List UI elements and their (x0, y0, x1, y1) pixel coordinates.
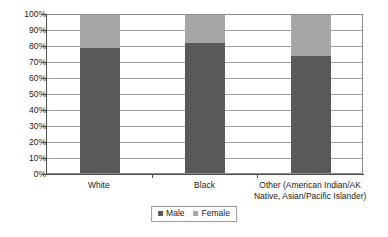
y-axis-tick-label: 20% (6, 138, 46, 147)
x-axis-category-label-line: Native, Asian/Pacific Islander) (245, 191, 375, 202)
y-axis-tick-label: 40% (6, 106, 46, 115)
y-axis-tick-labels: 100%90%80%70%60%50%40%30%20%10%0% (0, 0, 46, 237)
bar-segment-female[interactable] (185, 15, 225, 43)
chart-legend: Male Female (151, 206, 237, 222)
stacked-bar[interactable] (80, 15, 120, 173)
x-axis-tick-mark (257, 174, 258, 178)
y-axis-tick-label: 50% (6, 90, 46, 99)
y-axis-tick-label: 70% (6, 58, 46, 67)
stacked-bar-chart: 100%90%80%70%60%50%40%30%20%10%0% WhiteB… (0, 0, 388, 237)
x-axis-category-label: Other (American Indian/AKNative, Asian/P… (245, 180, 375, 202)
legend-label-female: Female (202, 209, 230, 218)
stacked-bar[interactable] (291, 15, 331, 173)
bar-slot (258, 15, 364, 173)
legend-item-male[interactable]: Male (158, 209, 184, 218)
bar-segment-female[interactable] (291, 15, 331, 56)
legend-swatch-female-icon (194, 211, 199, 216)
bar-segment-female[interactable] (80, 15, 120, 48)
y-axis-tick-label: 60% (6, 74, 46, 83)
bar-slot (153, 15, 259, 173)
y-axis-tick-label: 0% (6, 170, 46, 179)
x-axis-category-label-line: Other (American Indian/AK (245, 180, 375, 191)
bar-segment-male[interactable] (80, 48, 120, 173)
x-axis-tick-mark (152, 174, 153, 178)
stacked-bar[interactable] (185, 15, 225, 173)
y-axis-tick-label: 100% (6, 10, 46, 19)
bar-segment-male[interactable] (185, 43, 225, 173)
legend-label-male: Male (166, 209, 184, 218)
legend-swatch-male-icon (158, 211, 163, 216)
y-axis-line (46, 14, 47, 175)
bar-slot (47, 15, 153, 173)
y-axis-tick-label: 90% (6, 26, 46, 35)
y-axis-tick-label: 80% (6, 42, 46, 51)
x-axis-line (46, 174, 364, 175)
y-axis-tick-label: 30% (6, 122, 46, 131)
bar-segment-male[interactable] (291, 56, 331, 173)
legend-item-female[interactable]: Female (194, 209, 230, 218)
plot-area (46, 14, 363, 174)
y-axis-tick-label: 10% (6, 154, 46, 163)
